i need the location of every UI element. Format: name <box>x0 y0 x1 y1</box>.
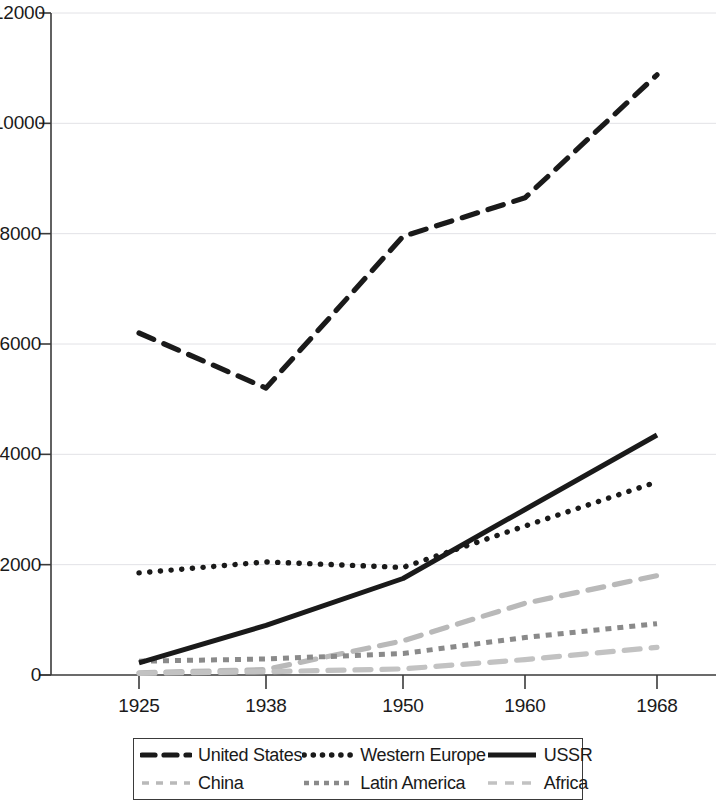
legend-label: China <box>198 773 244 794</box>
legend-grid: United StatesWestern EuropeUSSRChinaLati… <box>134 739 582 799</box>
legend-entry[interactable]: USSR <box>486 745 593 766</box>
legend-entry[interactable]: Western Europe <box>302 745 486 766</box>
y-tick-label: 2000 <box>0 554 41 576</box>
legend-label: Latin America <box>360 773 465 794</box>
y-tick-label: 0 <box>0 664 41 686</box>
series-line-united-states <box>139 75 657 388</box>
y-tick-label: 4000 <box>0 443 41 465</box>
legend-label: United States <box>198 745 302 766</box>
series-line-western-europe <box>139 482 657 573</box>
legend-swatch-dot-black-icon <box>302 748 354 762</box>
legend-swatch-dot-gray-icon <box>302 776 354 790</box>
chart-legend: United StatesWestern EuropeUSSRChinaLati… <box>133 738 583 800</box>
legend-entry[interactable]: United States <box>140 745 302 766</box>
x-tick-label: 1925 <box>118 695 159 717</box>
y-tick-label: 6000 <box>0 333 41 355</box>
energy-consumption-line-chart: 020004000600080001000012000 192519381950… <box>0 0 716 804</box>
series-line-ussr <box>139 435 657 663</box>
legend-label: Western Europe <box>360 745 486 766</box>
legend-label: USSR <box>544 745 593 766</box>
legend-label: Africa <box>544 773 588 794</box>
chart-plot-area <box>0 0 716 804</box>
data-series-group <box>139 75 657 674</box>
gridlines-group <box>52 13 716 565</box>
legend-swatch-dash-light-icon <box>140 776 192 790</box>
tick-marks-group <box>39 13 657 689</box>
legend-swatch-dash-black-icon <box>140 748 192 762</box>
x-tick-label: 1950 <box>382 695 423 717</box>
y-tick-label: 8000 <box>0 223 41 245</box>
x-tick-label: 1938 <box>245 695 286 717</box>
y-tick-label: 12000 <box>0 2 41 24</box>
x-tick-label: 1968 <box>636 695 677 717</box>
legend-entry[interactable]: China <box>140 773 302 794</box>
legend-swatch-dash-light2-icon <box>486 776 538 790</box>
x-tick-label: 1960 <box>504 695 545 717</box>
legend-swatch-solid-black-icon <box>486 748 538 762</box>
legend-entry[interactable]: Africa <box>486 773 593 794</box>
y-tick-label: 10000 <box>0 112 41 134</box>
legend-entry[interactable]: Latin America <box>302 773 486 794</box>
